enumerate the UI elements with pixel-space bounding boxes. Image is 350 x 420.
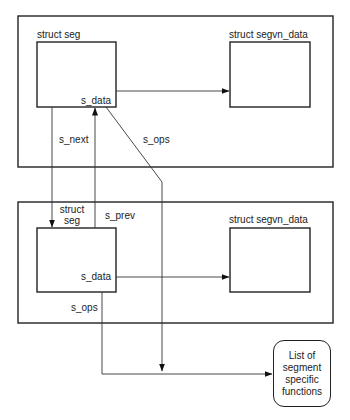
segvn-2-box (230, 228, 310, 292)
s-next-label: s_next (59, 134, 88, 145)
segvn-1-label: struct segvn_data (229, 29, 308, 40)
functions-line-3: specific (282, 374, 322, 386)
functions-line-4: functions (282, 386, 322, 398)
s-prev-label: s_prev (105, 210, 135, 221)
s-ops-top-label: s_ops (143, 134, 170, 145)
seg-1-s-data-label: s_data (81, 95, 111, 106)
functions-line-2: segment (282, 362, 322, 374)
segment-functions-box: List of segment specific functions (273, 340, 331, 407)
functions-line-1: List of (282, 350, 322, 362)
segvn-2-label: struct segvn_data (229, 214, 308, 225)
s-ops-bottom-label: s_ops (71, 302, 98, 313)
s-ops-2-arrow (102, 292, 272, 374)
seg-1-label: struct seg (37, 29, 80, 40)
seg-2-label-line2: seg (58, 215, 86, 226)
seg-2-label-line1: struct (58, 204, 86, 215)
segvn-1-box (230, 42, 310, 107)
seg-2-box (37, 228, 116, 292)
s-ops-1-arrow (106, 107, 162, 371)
seg-2-s-data-label: s_data (81, 271, 111, 282)
